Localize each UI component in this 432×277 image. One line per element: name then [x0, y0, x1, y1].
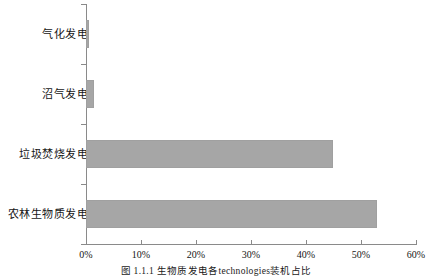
x-axis-tick — [306, 240, 307, 245]
x-axis-tick — [251, 240, 252, 245]
x-axis-tick — [86, 240, 87, 245]
bar-nonglin — [86, 200, 377, 228]
x-axis-tick-label: 10% — [118, 249, 164, 260]
x-axis-tick-label: 20% — [173, 249, 219, 260]
x-axis-tick — [416, 240, 417, 245]
bar-laji — [86, 140, 333, 168]
bar-row — [86, 4, 416, 64]
category-label-nonglin: 农林生物质发电 — [0, 208, 88, 220]
x-axis-tick — [141, 240, 142, 245]
bar-row — [86, 64, 416, 124]
bar-row — [86, 184, 416, 244]
x-axis-tick — [361, 240, 362, 245]
category-label-zhaoqi: 沼气发电 — [0, 88, 88, 100]
category-label-qihua: 气化发电 — [0, 28, 88, 40]
bar-row — [86, 124, 416, 184]
x-axis-tick-label: 0% — [63, 249, 109, 260]
x-axis-tick-label: 50% — [338, 249, 384, 260]
x-axis-tick-label: 40% — [283, 249, 329, 260]
plot-area — [86, 4, 416, 244]
x-axis-tick-label: 60% — [393, 249, 432, 260]
x-axis-tick-label: 30% — [228, 249, 274, 260]
category-label-laji: 垃圾焚烧发电 — [0, 148, 88, 160]
x-axis-tick — [196, 240, 197, 245]
bar-qihua — [86, 20, 89, 48]
figure-caption: 图 1.1.1 生物质发电各technologies装机占比 — [0, 266, 432, 277]
bar-zhaoqi — [86, 80, 94, 108]
